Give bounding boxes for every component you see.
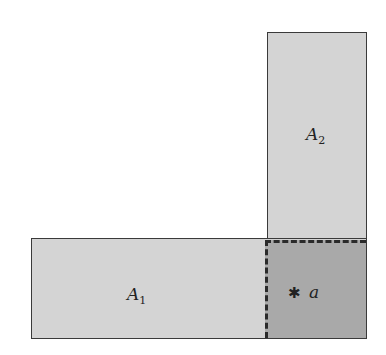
label-a1: A1 bbox=[127, 284, 146, 307]
point-marker-icon: ✱ bbox=[288, 284, 301, 302]
label-a1-sub: 1 bbox=[139, 294, 146, 307]
label-a2-sub: 2 bbox=[318, 134, 325, 147]
label-a2: A2 bbox=[306, 124, 325, 147]
label-a2-base: A bbox=[306, 124, 318, 144]
point-label: a bbox=[309, 282, 319, 302]
label-a1-base: A bbox=[127, 284, 139, 304]
